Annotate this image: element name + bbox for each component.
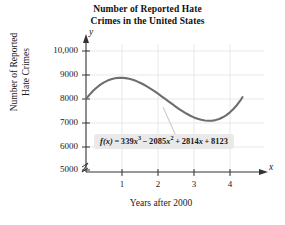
equation-operator-3: +	[203, 137, 211, 146]
equation-term2-coefficient: 2085	[149, 137, 166, 146]
equation-constant: 8123	[211, 137, 228, 146]
y-axis	[83, 34, 89, 172]
x-axis-title: Years after 2000	[86, 198, 236, 208]
x-axis	[86, 169, 268, 175]
ytick-label-9000: 9000	[34, 70, 78, 79]
y-axis-title-line-2: Hate Crimes	[20, 7, 32, 137]
equation-callout: f(x)=339x3−2085x2+2814x+8123	[94, 134, 234, 149]
ytick-label-8000: 8000	[34, 94, 78, 103]
ytick-label-6000: 6000	[34, 142, 78, 151]
xtick-label-2: 2	[150, 180, 166, 189]
equation-equals: =	[113, 137, 121, 146]
y-axis-variable-label: y	[89, 27, 93, 37]
xtick-label-3: 3	[186, 180, 202, 189]
xtick-label-4: 4	[222, 180, 238, 189]
callout-leader-line	[163, 107, 176, 136]
equation-operator-1: −	[141, 137, 149, 146]
xtick-label-1: 1	[114, 180, 130, 189]
ytick-label-7000: 7000	[34, 118, 78, 127]
y-axis-title: Number of Reported Hate Crimes	[8, 7, 32, 137]
x-axis-variable-label: x	[269, 162, 273, 172]
y-axis-title-line-1: Number of Reported	[8, 7, 20, 137]
equation-term1-coefficient: 339	[121, 137, 134, 146]
equation-operator-2: +	[174, 137, 182, 146]
equation-function-name: f(x)	[100, 137, 113, 146]
x-axis-arrowhead	[259, 169, 268, 175]
hate-crimes-chart-figure: Number of Reported Hate Crimes in the Un…	[0, 0, 285, 225]
ytick-label-10000: 10,000	[34, 46, 78, 55]
ytick-label-5000: 5000	[34, 165, 78, 174]
equation-term3-coefficient: 2814	[182, 137, 199, 146]
y-axis-break-icon	[82, 163, 88, 172]
plot-area	[0, 0, 285, 225]
